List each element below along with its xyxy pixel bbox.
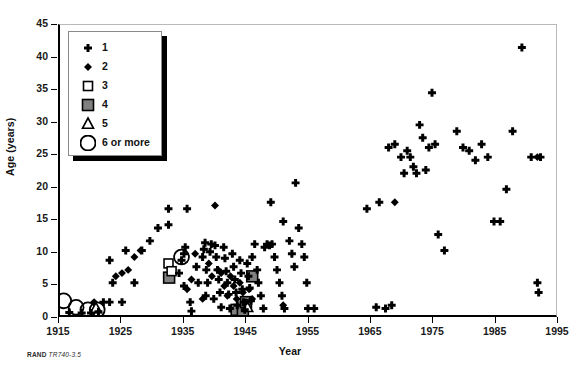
data-point — [106, 256, 114, 264]
data-point — [236, 256, 244, 264]
data-point — [397, 153, 405, 161]
gray-square-icon — [80, 97, 96, 113]
data-point — [310, 305, 318, 313]
data-point — [187, 307, 195, 315]
data-point — [273, 266, 281, 274]
data-point — [502, 185, 510, 193]
data-point — [484, 153, 492, 161]
data-point — [259, 305, 267, 313]
y-tick-label-15: 15 — [6, 213, 48, 224]
legend-item-4[interactable]: 4 — [69, 95, 161, 114]
data-point — [138, 247, 146, 255]
data-point — [271, 253, 279, 261]
x-tick-1935 — [183, 317, 184, 323]
legend-item-label: 3 — [102, 80, 108, 91]
data-point — [202, 266, 210, 274]
data-point — [285, 237, 293, 245]
data-point — [212, 253, 220, 261]
y-tick-15 — [51, 219, 57, 220]
data-point — [363, 205, 371, 213]
y-tick-label-30: 30 — [6, 116, 48, 127]
open-circle-icon — [78, 135, 98, 151]
data-point — [199, 253, 207, 261]
data-point — [300, 253, 308, 261]
data-point — [248, 253, 256, 261]
x-tick-1925 — [120, 317, 121, 323]
data-point — [267, 198, 275, 206]
data-point — [194, 279, 202, 287]
gray-square-icon — [78, 97, 98, 113]
data-point — [478, 140, 486, 148]
data-point — [118, 298, 126, 306]
data-point — [303, 279, 311, 287]
y-tick-label-40: 40 — [6, 51, 48, 62]
data-point — [257, 292, 265, 300]
legend-item-1[interactable]: 1 — [69, 38, 161, 57]
data-point — [220, 243, 228, 251]
x-tick-label-1975: 1975 — [407, 326, 457, 337]
data-point — [109, 279, 117, 287]
x-tick-label-1985: 1985 — [470, 326, 520, 337]
data-point — [400, 169, 408, 177]
data-point — [78, 309, 86, 315]
legend-item-label: 5 — [102, 118, 108, 129]
data-point — [228, 250, 236, 258]
data-point — [167, 267, 176, 276]
data-point — [154, 224, 162, 232]
data-point — [251, 240, 259, 248]
legend-item-5[interactable]: 5 — [69, 114, 161, 133]
y-tick-10 — [51, 252, 57, 253]
y-tick-label-10: 10 — [6, 246, 48, 257]
plus-icon — [78, 40, 98, 56]
open-square-icon — [78, 78, 98, 94]
legend-box: 123456 or more — [68, 31, 162, 156]
data-point — [422, 166, 430, 174]
data-point — [372, 303, 380, 311]
data-point — [208, 272, 216, 280]
legend-item-2[interactable]: 2 — [69, 57, 161, 76]
x-tick-1975 — [432, 317, 433, 323]
data-point — [292, 179, 300, 187]
y-tick-25 — [51, 154, 57, 155]
legend-item-label: 4 — [102, 99, 108, 110]
x-tick-label-1925: 1925 — [95, 326, 145, 337]
y-tick-label-25: 25 — [6, 148, 48, 159]
data-point — [165, 205, 173, 213]
data-point — [279, 218, 287, 226]
data-point — [221, 254, 229, 262]
data-point — [278, 292, 286, 300]
data-point — [419, 134, 427, 142]
legend-item-label: 6 or more — [102, 137, 150, 148]
data-point — [518, 44, 526, 52]
legend-item-label: 1 — [102, 42, 108, 53]
x-tick-1945 — [245, 317, 246, 323]
data-point — [191, 250, 199, 258]
data-point — [130, 279, 138, 287]
y-tick-label-0: 0 — [6, 311, 48, 322]
y-tick-5 — [51, 284, 57, 285]
data-point — [298, 240, 306, 248]
y-tick-30 — [51, 122, 57, 123]
y-tick-0 — [51, 317, 57, 318]
data-point — [533, 279, 541, 287]
open-triangle-icon — [80, 116, 96, 132]
legend-item-3[interactable]: 3 — [69, 76, 161, 95]
legend-item-6[interactable]: 6 or more — [69, 133, 161, 152]
y-tick-35 — [51, 89, 57, 90]
y-tick-45 — [51, 24, 57, 25]
data-point — [215, 276, 223, 284]
data-point — [183, 205, 191, 213]
data-point — [375, 198, 383, 206]
data-point — [237, 269, 245, 277]
data-point — [230, 263, 238, 271]
data-point — [288, 250, 296, 258]
y-tick-20 — [51, 187, 57, 188]
data-point — [106, 298, 114, 306]
data-point — [243, 259, 251, 267]
x-tick-1965 — [370, 317, 371, 323]
data-point — [146, 237, 154, 245]
data-point — [428, 89, 436, 97]
y-tick-40 — [51, 57, 57, 58]
data-point — [216, 288, 224, 296]
x-tick-label-1955: 1955 — [283, 326, 333, 337]
